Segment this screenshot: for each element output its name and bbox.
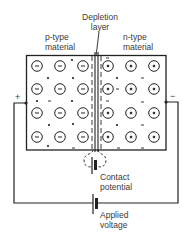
- pn-junction-diagram: [0, 0, 186, 239]
- donor-ion: [149, 84, 160, 95]
- donor-ion: [149, 61, 160, 72]
- p-region-ions: [32, 61, 89, 143]
- acceptor-ion: [32, 84, 43, 95]
- acceptor-ion: [55, 108, 66, 119]
- semiconductor-block: [27, 56, 167, 151]
- positive-terminal-sign: +: [15, 92, 20, 102]
- donor-ion: [126, 132, 137, 143]
- acceptor-ion: [78, 132, 89, 143]
- donor-ion: [103, 132, 114, 143]
- n-region-ions: [103, 61, 160, 143]
- acceptor-ion: [32, 132, 43, 143]
- donor-ion: [103, 61, 114, 72]
- donor-ion: [149, 108, 160, 119]
- acceptor-ion: [55, 84, 66, 95]
- applied-voltage-label: Applied voltage: [100, 210, 128, 230]
- negative-terminal-sign: −: [170, 91, 175, 101]
- acceptor-ion: [32, 61, 43, 72]
- n-type-label: n-type material: [123, 32, 153, 52]
- right-terminal-node: [164, 100, 167, 103]
- donor-ion: [149, 132, 160, 143]
- donor-ion: [126, 84, 137, 95]
- donor-ion: [103, 108, 114, 119]
- depletion-layer-label: Depletion layer: [80, 12, 120, 32]
- donor-ion: [126, 108, 137, 119]
- acceptor-ion: [55, 61, 66, 72]
- p-type-label: p-type material: [45, 32, 75, 52]
- n-region-electrons: [106, 58, 144, 148]
- acceptor-ion: [55, 132, 66, 143]
- acceptor-ion: [78, 61, 89, 72]
- n-region-holes: [116, 77, 118, 126]
- acceptor-ion: [32, 108, 43, 119]
- donor-ion: [103, 84, 114, 95]
- donor-ion: [126, 61, 137, 72]
- acceptor-ion: [78, 108, 89, 119]
- contact-potential-label: Contact potential: [100, 172, 132, 192]
- acceptor-ion: [78, 84, 89, 95]
- left-terminal-node: [24, 101, 27, 104]
